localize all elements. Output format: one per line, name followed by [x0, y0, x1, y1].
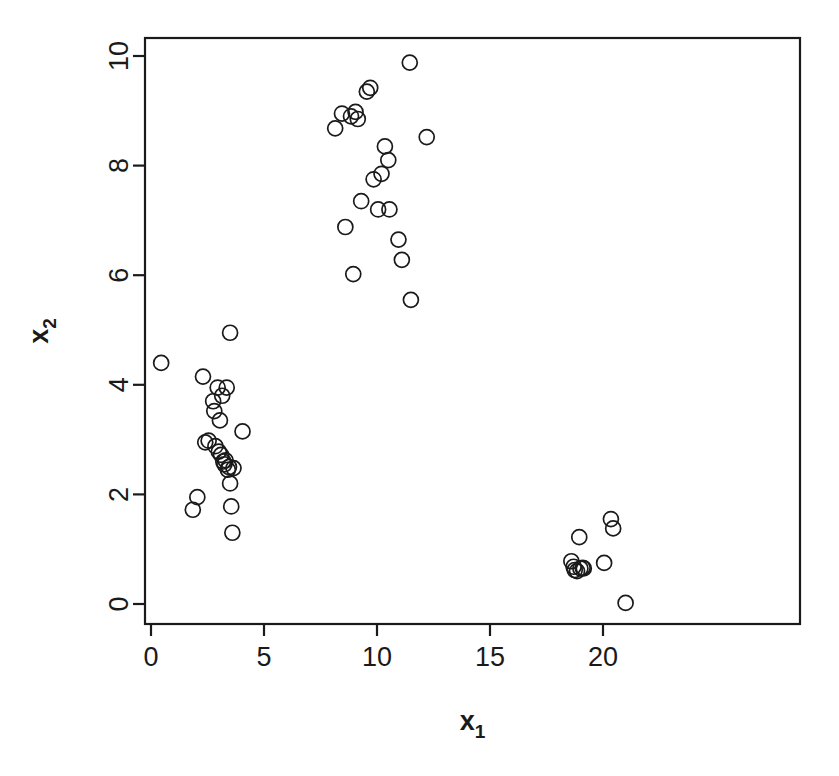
x-tick-label: 20	[588, 642, 618, 672]
x-tick-label: 5	[256, 642, 271, 672]
y-tick-label: 8	[104, 158, 134, 173]
x-tick-label: 10	[362, 642, 392, 672]
y-tick-label: 0	[104, 596, 134, 611]
y-tick-label: 6	[104, 268, 134, 283]
y-tick-label: 2	[104, 487, 134, 502]
plot-canvas: 05101520 0246810 x1 x2	[0, 0, 839, 776]
x-tick-label: 15	[475, 642, 505, 672]
y-tick-label: 10	[104, 41, 134, 71]
x-tick-label: 0	[143, 642, 158, 672]
y-tick-label: 4	[104, 377, 134, 392]
scatter-plot-figure: 05101520 0246810 x1 x2	[0, 0, 839, 776]
